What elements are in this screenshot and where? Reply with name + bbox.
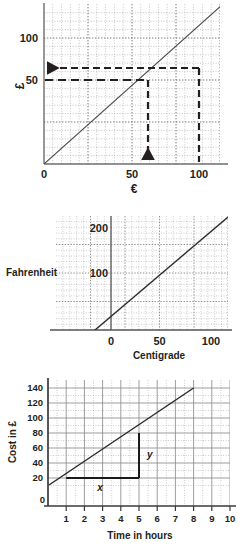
y-tick-label-80: 80 <box>32 427 43 438</box>
x-tick-label-3: 3 <box>100 513 105 524</box>
y-tick-label-200: 200 <box>90 222 108 234</box>
worksheet-page: 100 50 0 50 100 £ € <box>0 0 242 548</box>
x-tick-label-0: 0 <box>108 335 114 347</box>
y-tick-label-100: 100 <box>20 32 38 44</box>
y-tick-label-100: 100 <box>90 267 108 279</box>
y-tick-label-100: 100 <box>27 412 43 423</box>
cost-chart-svg: x y 140 120 100 80 60 40 20 0 1 2 3 4 5 … <box>0 372 242 548</box>
origin-label: 0 <box>40 494 45 505</box>
x-tick-label-50: 50 <box>126 168 138 180</box>
x-tick-label-7: 7 <box>173 513 178 524</box>
x-axis-title: Centigrade <box>133 350 186 361</box>
y-tick-label-20: 20 <box>32 472 43 483</box>
x-tick-label-10: 10 <box>225 513 236 524</box>
y-axis-title: £ <box>13 82 27 89</box>
x-tick-label-50: 50 <box>153 335 165 347</box>
x-tick-label-9: 9 <box>209 513 214 524</box>
currency-conversion-chart: 100 50 0 50 100 £ € <box>0 0 242 196</box>
x-axis-title: Time in hours <box>107 530 173 541</box>
y-tick-label-60: 60 <box>32 442 43 453</box>
conversion-line <box>44 5 222 164</box>
y-axis-title: Fahrenheit <box>6 267 58 278</box>
x-tick-label-6: 6 <box>155 513 160 524</box>
x-axis-title: € <box>131 182 138 196</box>
cost-vs-time-chart: x y 140 120 100 80 60 40 20 0 1 2 3 4 5 … <box>0 372 242 548</box>
run-label-x: x <box>96 482 103 493</box>
temperature-chart-svg: 200 100 0 50 100 Fahrenheit Centigrade <box>0 196 242 372</box>
x-tick-label-2: 2 <box>82 513 87 524</box>
y-tick-label-40: 40 <box>32 457 43 468</box>
rise-label-y: y <box>146 449 153 460</box>
temperature-conversion-chart: 200 100 0 50 100 Fahrenheit Centigrade <box>0 196 242 372</box>
temperature-line <box>88 217 228 336</box>
y-tick-label-120: 120 <box>27 397 43 408</box>
x-tick-label-5: 5 <box>136 513 142 524</box>
x-tick-label-0: 0 <box>41 168 47 180</box>
x-tick-label-100: 100 <box>190 168 208 180</box>
x-tick-label-4: 4 <box>118 513 124 524</box>
x-tick-label-8: 8 <box>191 513 196 524</box>
currency-chart-svg: 100 50 0 50 100 £ € <box>0 0 242 196</box>
y-tick-label-50: 50 <box>26 74 38 86</box>
x-tick-label-100: 100 <box>202 335 220 347</box>
y-tick-label-140: 140 <box>27 382 43 393</box>
x-tick-label-1: 1 <box>64 513 70 524</box>
y-axis-title: Cost in £ <box>7 420 18 463</box>
